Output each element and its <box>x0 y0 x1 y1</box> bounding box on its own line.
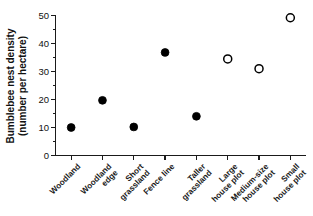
data-point <box>130 123 138 131</box>
data-point <box>193 112 201 120</box>
y-tick-label: 40 <box>38 38 49 49</box>
bumblebee-nest-density-chart: 01020304050 Bumblebee nest density (numb… <box>0 0 313 216</box>
data-point <box>67 124 75 132</box>
data-point <box>99 96 107 104</box>
data-point <box>224 55 232 63</box>
y-tick-label: 20 <box>38 94 49 105</box>
data-point <box>161 49 169 57</box>
data-point <box>255 65 263 73</box>
y-tick-label: 0 <box>44 150 49 161</box>
y-tick-label: 10 <box>38 122 49 133</box>
plot-canvas: 01020304050 <box>0 0 313 216</box>
y-tick-label: 50 <box>38 10 49 21</box>
data-point <box>286 14 294 22</box>
y-tick-label: 30 <box>38 66 49 77</box>
